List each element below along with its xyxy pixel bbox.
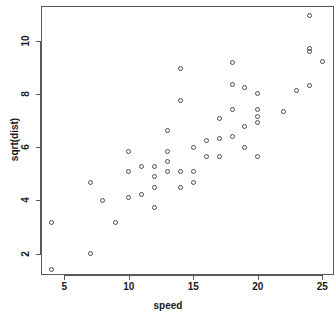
data-point <box>281 109 286 114</box>
data-point <box>230 60 235 65</box>
data-point <box>242 85 247 90</box>
data-point <box>88 251 93 256</box>
plot-data-region <box>41 6 334 275</box>
y-axis-tick-label: 8 <box>20 86 32 102</box>
data-point <box>152 174 157 179</box>
data-point <box>255 91 260 96</box>
x-axis-tick-label: 10 <box>114 281 144 292</box>
data-point <box>178 185 183 190</box>
y-axis-tick-label: 6 <box>20 139 32 155</box>
data-point <box>139 164 144 169</box>
scatter-plot-screenshot: speed sqrt(dist) 510152025246810 <box>0 0 336 329</box>
data-point <box>230 82 235 87</box>
data-point <box>191 145 196 150</box>
data-point <box>255 114 260 119</box>
data-point <box>126 169 131 174</box>
data-point <box>126 195 131 200</box>
data-point <box>49 267 54 272</box>
data-point <box>100 198 105 203</box>
data-point <box>165 128 170 133</box>
data-point <box>165 169 170 174</box>
data-point <box>191 180 196 185</box>
x-axis-tick <box>322 275 323 280</box>
y-axis-tick-label: 10 <box>20 33 32 49</box>
data-point <box>230 134 235 139</box>
x-axis-tick-label: 15 <box>178 281 208 292</box>
data-point <box>307 83 312 88</box>
data-point <box>217 136 222 141</box>
y-axis-line <box>40 41 41 254</box>
data-point <box>255 107 260 112</box>
data-point <box>152 185 157 190</box>
data-point <box>152 164 157 169</box>
data-point <box>139 192 144 197</box>
data-point <box>126 149 131 154</box>
data-point <box>88 180 93 185</box>
data-point <box>320 59 325 64</box>
data-point <box>178 66 183 71</box>
data-point <box>178 98 183 103</box>
data-point <box>165 159 170 164</box>
data-point <box>294 88 299 93</box>
data-point <box>217 116 222 121</box>
y-axis-tick <box>36 254 41 255</box>
data-point <box>242 145 247 150</box>
data-point <box>178 169 183 174</box>
x-axis-tick-label: 20 <box>243 281 273 292</box>
y-axis-tick-label: 2 <box>20 246 32 262</box>
y-axis-title: sqrt(dist) <box>9 100 20 180</box>
y-axis-tick-label: 4 <box>20 192 32 208</box>
x-axis-title: speed <box>0 300 336 311</box>
data-point <box>242 124 247 129</box>
data-point <box>49 220 54 225</box>
x-axis-tick-label: 5 <box>49 281 79 292</box>
data-point <box>255 154 260 159</box>
data-point <box>152 205 157 210</box>
x-axis-tick-label: 25 <box>307 281 336 292</box>
data-point <box>204 154 209 159</box>
data-point <box>204 138 209 143</box>
data-point <box>230 107 235 112</box>
data-point <box>113 220 118 225</box>
data-point <box>217 154 222 159</box>
data-point <box>165 149 170 154</box>
x-axis-line <box>64 275 322 276</box>
data-point <box>255 120 260 125</box>
data-point <box>307 13 312 18</box>
data-point <box>191 169 196 174</box>
